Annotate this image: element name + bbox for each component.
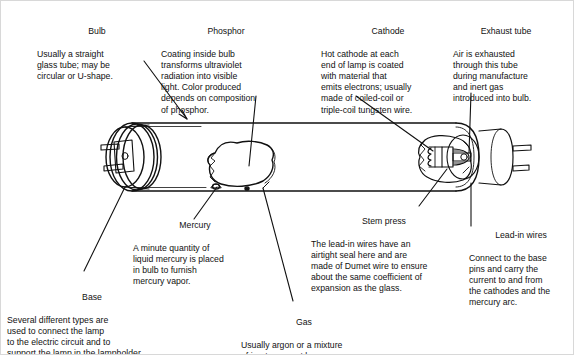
callout-exhaust-tube-body: Air is exhausted through this tube durin…: [453, 49, 559, 105]
callout-exhaust-tube-heading: Exhaust tube: [453, 26, 559, 37]
fluorescent-lamp-diagram: Bulb Usually a straight glass tube; may …: [0, 0, 574, 355]
callout-base: Base Several different types are used to…: [7, 281, 177, 355]
lamp-base-left: [101, 123, 161, 191]
callout-gas-heading: Gas: [241, 317, 367, 328]
callout-cathode-heading: Cathode: [321, 26, 455, 37]
callout-stem-press-heading: Stem press: [311, 216, 457, 227]
callout-cathode: Cathode Hot cathode at each end of lamp …: [321, 15, 455, 127]
callout-phosphor: Phosphor Coating inside bulb transforms …: [161, 15, 291, 127]
leader-base: [84, 187, 125, 271]
callout-exhaust-tube: Exhaust tube Air is exhausted through th…: [453, 15, 559, 116]
callout-gas: Gas Usually argon or a mixture of inert …: [241, 306, 367, 355]
callout-stem-press: Stem press The lead-in wires have an air…: [311, 205, 457, 306]
callout-bulb-body: Usually a straight glass tube; may be ci…: [37, 49, 157, 83]
callout-phosphor-heading: Phosphor: [161, 26, 291, 37]
lamp-end-right-cutaway: [419, 123, 531, 191]
callout-base-heading: Base: [7, 292, 177, 303]
callout-phosphor-body: Coating inside bulb transforms ultraviol…: [161, 49, 291, 116]
callout-mercury-heading: Mercury: [133, 220, 257, 231]
callout-bulb: Bulb Usually a straight glass tube; may …: [37, 15, 157, 93]
callout-stem-press-body: The lead-in wires have an airtight seal …: [311, 239, 457, 295]
callout-bulb-heading: Bulb: [37, 26, 157, 37]
callout-lead-in-wires: Lead-in wires Connect to the base pins a…: [469, 219, 573, 320]
callout-base-body: Several different types are used to conn…: [7, 315, 177, 355]
phosphor-cutaway: [208, 141, 275, 186]
callout-lead-in-wires-body: Connect to the base pins and carry the c…: [469, 253, 573, 309]
callout-gas-body: Usually argon or a mixture of inert gase…: [241, 340, 367, 355]
callout-cathode-body: Hot cathode at each end of lamp is coate…: [321, 49, 455, 116]
callout-lead-in-wires-heading: Lead-in wires: [469, 230, 573, 241]
leader-gas: [263, 188, 293, 301]
